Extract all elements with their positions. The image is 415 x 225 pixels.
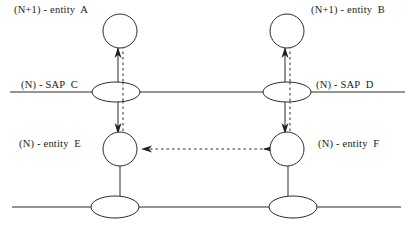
label-entity-e: (N) - entity E [19, 138, 81, 149]
sap-c-ellipse [92, 82, 140, 102]
entity-b-circle [270, 14, 304, 48]
diagram-svg [0, 0, 415, 225]
entity-a-circle [103, 14, 137, 48]
label-entity-a: (N+1) - entity A [14, 4, 88, 15]
label-sap-d: (N) - SAP D [316, 79, 373, 90]
lower-sap-left-ellipse [91, 196, 139, 218]
entity-e-circle [103, 132, 137, 166]
sap-d-ellipse [263, 82, 311, 102]
label-entity-f: (N) - entity F [318, 138, 379, 149]
label-sap-c: (N) - SAP C [21, 79, 78, 90]
diagram-canvas: (N+1) - entity A (N+1) - entity B (N) - … [0, 0, 415, 225]
label-entity-b: (N+1) - entity B [311, 4, 385, 15]
lower-sap-right-ellipse [269, 196, 317, 218]
entity-f-circle [270, 132, 304, 166]
